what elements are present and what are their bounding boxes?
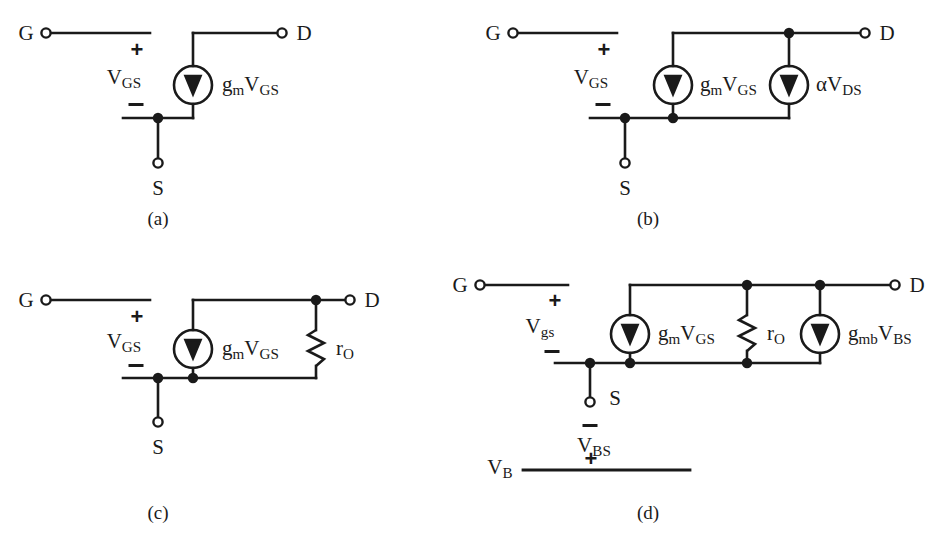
panel-d-source-terminal [585,397,594,406]
panel-d-current-source-gmb-label: gmbVBS [848,323,912,347]
panel-b-drain-terminal [860,28,869,37]
panel-b-node-dot-rail [668,113,678,123]
panel-c-source-label: S [152,437,164,458]
panel-a-plus-sign: + [131,39,144,61]
panel-b-current-source-alpha-label: αVDS [816,74,862,98]
panel-b-gate-terminal [508,28,517,37]
panel-b-drain-label: D [879,23,894,44]
panel-c-current-source-label: gmVGS [222,338,279,362]
panel-c-minus-sign [129,356,144,372]
panel-d-drain-label: D [909,275,924,296]
panel-d-port-voltage-label: Vgs [526,316,555,340]
panel-a-source-label: S [152,178,164,199]
panel-b-source-label: S [619,178,631,199]
panel-d-body-minus-sign [583,416,598,432]
panel-a-drain-label: D [296,23,311,44]
panel-d-body-terminal-label: VB [487,457,512,481]
panel-d-node-dot-rail [625,358,635,368]
panel-a-drain-terminal [277,28,286,37]
panel-d-node-dot-drain [815,280,825,290]
panel-d-node-dot-source [585,358,595,368]
panel-b-gate-label: G [485,23,500,44]
panel-a-gate-terminal [41,28,50,37]
panel-b-node-dot-source [620,113,630,123]
panel-b-caption: (b) [637,209,659,228]
panel-d-wires [486,285,890,470]
panel-b-node-dot-drain [784,28,794,38]
panel-b-port-voltage-label: VGS [574,67,609,91]
panel-d-minus-sign [545,342,560,358]
panel-c-drain-label: D [364,290,379,311]
panel-c-caption: (c) [147,503,168,522]
panel-b-source-terminal [620,158,629,167]
panel-d-caption: (d) [637,503,659,522]
panel-d-gate-terminal [475,280,484,289]
panel-d-drain-terminal [890,280,899,289]
panel-c-node-dot-source [153,373,163,383]
panel-d-body-plus-sign: + [585,448,598,470]
panel-c-gate-label: G [18,290,33,311]
panel-d-source-label: S [609,388,621,409]
panel-a-gate-label: G [18,23,33,44]
panel-a-port-voltage-label: VGS [107,67,142,91]
panel-d-plus-sign: + [549,290,562,312]
panel-d-resistor-label: rO [767,323,785,347]
panel-c-node-dot-rail [188,373,198,383]
panel-c-gate-terminal [41,295,50,304]
panel-c-drain-terminal [345,295,354,304]
panel-a-source-terminal [153,158,162,167]
panel-c-node-dot-drain [311,295,321,305]
panel-d-current-source-gm-label: gmVGS [658,323,715,347]
panel-d-node-dot-bottom-mid [742,358,752,368]
panel-a-current-source-label: gmVGS [222,74,279,98]
panel-d-gate-label: G [452,275,467,296]
panel-c-port-voltage-label: VGS [107,331,142,355]
panel-d-resistor-zigzag [739,315,755,351]
panel-c-wires [52,300,345,417]
panel-c-source-terminal [153,417,162,426]
panel-c-plus-sign: + [131,306,144,328]
panel-c-resistor-label: rO [336,338,354,362]
panel-c-resistor-zigzag [308,330,324,366]
panel-a-minus-sign [129,95,144,111]
panel-a-node-dot-source [153,113,163,123]
panel-d-node-dot-top-mid [742,280,752,290]
panel-b-plus-sign: + [598,39,611,61]
panel-b-current-source-gm-label: gmVGS [700,74,757,98]
panel-b-minus-sign [596,95,611,111]
panel-a-caption: (a) [147,209,168,228]
figure-root: G D S + VGS gmVGS (a) G D S + VGS gmVGS … [0,0,935,534]
